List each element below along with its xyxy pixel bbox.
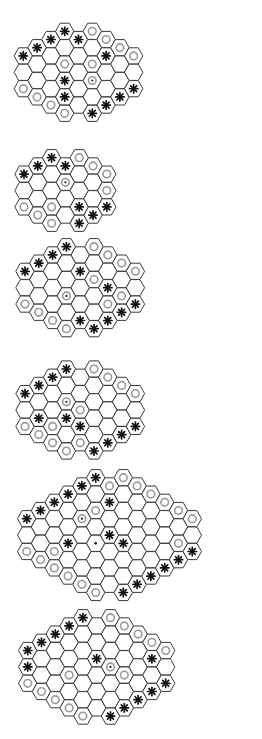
center-dot-icon — [91, 79, 93, 81]
star-icon — [162, 679, 170, 687]
star-icon — [35, 259, 43, 267]
star-icon — [50, 498, 58, 506]
hex-cell — [183, 511, 201, 527]
star-icon — [120, 704, 128, 712]
star-icon — [76, 422, 84, 430]
hex-cell — [98, 182, 116, 198]
star-icon — [65, 622, 73, 630]
star-icon — [19, 52, 27, 60]
star-icon — [147, 572, 155, 580]
star-icon — [75, 219, 83, 227]
star-icon — [21, 267, 29, 275]
board-2 — [15, 150, 116, 232]
board-3 — [16, 239, 145, 337]
star-icon — [47, 35, 55, 43]
star-icon — [116, 93, 124, 101]
star-icon — [79, 614, 87, 622]
star-icon — [134, 696, 142, 704]
star-icon — [148, 687, 156, 695]
center-dot-icon — [94, 542, 97, 545]
star-icon — [75, 203, 83, 211]
hex-cell — [98, 166, 116, 182]
star-icon — [61, 27, 69, 35]
star-icon — [104, 284, 112, 292]
center-dot-icon — [109, 666, 111, 668]
star-icon — [148, 655, 156, 663]
star-icon — [88, 109, 96, 117]
hex-boards-figure — [0, 0, 262, 739]
star-icon — [33, 44, 41, 52]
hex-cell — [126, 402, 144, 418]
star-icon — [130, 85, 138, 93]
star-icon — [62, 414, 70, 422]
star-icon — [133, 580, 141, 588]
star-icon — [102, 52, 110, 60]
center-dot-icon — [65, 295, 67, 297]
star-icon — [104, 439, 112, 447]
board-1 — [14, 23, 143, 121]
star-icon — [161, 564, 169, 572]
hex-cell — [126, 263, 144, 279]
star-icon — [102, 101, 110, 109]
star-icon — [37, 638, 45, 646]
star-icon — [93, 655, 101, 663]
center-dot-icon — [64, 181, 66, 183]
board-4 — [16, 361, 145, 459]
star-icon — [24, 646, 32, 654]
star-icon — [23, 515, 31, 523]
board-6 — [19, 610, 175, 725]
star-icon — [74, 35, 82, 43]
star-icon — [106, 712, 114, 720]
star-icon — [61, 76, 69, 84]
star-icon — [188, 547, 196, 555]
hex-cell — [126, 386, 144, 402]
star-icon — [119, 588, 127, 596]
hex-cell — [126, 280, 144, 296]
star-icon — [36, 506, 44, 514]
star-icon — [104, 316, 112, 324]
star-icon — [131, 422, 139, 430]
hex-cell — [125, 48, 143, 64]
board-5 — [18, 470, 202, 601]
star-icon — [103, 203, 111, 211]
star-icon — [47, 154, 55, 162]
star-icon — [48, 373, 56, 381]
star-icon — [64, 539, 72, 547]
star-icon — [105, 531, 113, 539]
star-icon — [78, 482, 86, 490]
star-icon — [92, 474, 100, 482]
star-icon — [174, 556, 182, 564]
center-dot-icon — [81, 518, 83, 520]
star-icon — [117, 430, 125, 438]
star-icon — [89, 211, 97, 219]
star-icon — [21, 389, 29, 397]
star-icon — [131, 300, 139, 308]
star-icon — [20, 170, 28, 178]
star-icon — [64, 490, 72, 498]
star-icon — [35, 381, 43, 389]
star-icon — [61, 162, 69, 170]
hex-cell — [157, 642, 175, 658]
star-icon — [105, 498, 113, 506]
star-icon — [90, 447, 98, 455]
hex-cell — [183, 527, 201, 543]
star-icon — [90, 325, 98, 333]
center-dot-icon — [65, 401, 67, 403]
star-icon — [35, 414, 43, 422]
star-icon — [62, 243, 70, 251]
hex-cell — [157, 659, 175, 675]
star-icon — [34, 162, 42, 170]
hex-cell — [125, 64, 143, 80]
star-icon — [51, 630, 59, 638]
star-icon — [61, 93, 69, 101]
star-icon — [62, 365, 70, 373]
star-icon — [119, 539, 127, 547]
star-icon — [24, 663, 32, 671]
star-icon — [117, 308, 125, 316]
star-icon — [76, 316, 84, 324]
star-icon — [76, 267, 84, 275]
star-icon — [48, 251, 56, 259]
